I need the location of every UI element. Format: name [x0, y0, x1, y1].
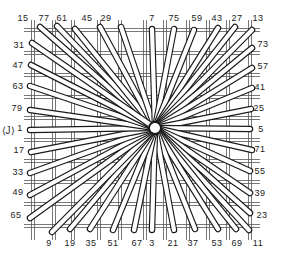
- spoke-label: 43: [211, 14, 222, 23]
- spoke-label: 27: [231, 14, 242, 23]
- spoke-label: 17: [13, 146, 24, 155]
- spoke-label: 9: [46, 239, 52, 248]
- spoke-label: 55: [254, 167, 265, 176]
- spoke-label: 49: [12, 188, 23, 197]
- spoke-label: 3: [149, 239, 155, 248]
- spoke-label: 71: [254, 145, 265, 154]
- spoke-label: 75: [168, 14, 179, 23]
- spoke-label: 31: [13, 41, 24, 50]
- spoke-label: 69: [231, 239, 242, 248]
- spoke-label: 1: [17, 124, 23, 133]
- spoke-label: 51: [107, 239, 118, 248]
- spoke-label: 5: [258, 125, 264, 134]
- center-hub: [148, 121, 162, 135]
- spoke-label: 61: [56, 14, 67, 23]
- side-label: ⟨J⟩: [2, 125, 15, 136]
- spoke-label: 59: [191, 14, 202, 23]
- diagram-canvas: [0, 0, 285, 269]
- spoke-label: 79: [11, 104, 22, 113]
- spoke-label: 65: [10, 211, 21, 220]
- spoke-label: 47: [12, 61, 23, 70]
- spoke-label: 21: [167, 239, 178, 248]
- spoke-label: 11: [253, 239, 263, 248]
- spoke-diagram: 1577614529775594327137357412557155392311…: [0, 0, 285, 269]
- spoke-label: 45: [81, 14, 92, 23]
- spoke-label: 23: [256, 211, 267, 220]
- spoke-label: 77: [38, 14, 49, 23]
- spoke-label: 29: [100, 14, 111, 23]
- spoke-label: 33: [12, 168, 23, 177]
- spoke-label: 53: [211, 239, 222, 248]
- spoke-label: 25: [253, 104, 264, 113]
- spoke-label: 41: [254, 83, 265, 92]
- spoke-label: 15: [17, 14, 28, 23]
- spoke-label: 57: [257, 62, 268, 71]
- spoke-label: 63: [12, 82, 23, 91]
- spoke-rods: [30, 26, 252, 232]
- spoke-label: 67: [131, 239, 142, 248]
- spoke-label: 39: [254, 189, 265, 198]
- spoke-label: 37: [187, 239, 198, 248]
- spoke-label: 7: [149, 14, 155, 23]
- spoke-label: 73: [257, 40, 268, 49]
- spoke-label: 35: [85, 239, 96, 248]
- spoke-label: 19: [64, 239, 75, 248]
- spoke-label: 13: [252, 14, 263, 23]
